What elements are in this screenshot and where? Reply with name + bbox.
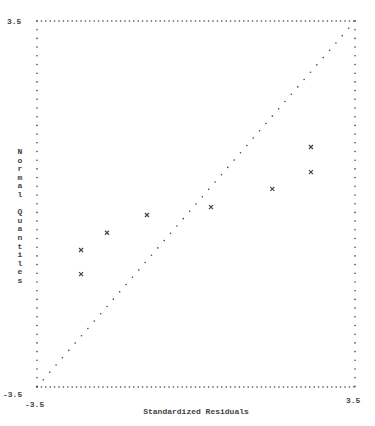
x-right-tick-label: 3.5 — [346, 396, 361, 405]
data-point-marker — [79, 272, 83, 276]
data-point-marker — [309, 145, 313, 149]
data-point-marker — [270, 187, 274, 191]
data-point-marker — [309, 170, 313, 174]
x-axis-label: Standardized Residuals — [143, 407, 249, 416]
y-bottom-tick-label: -3.5 — [3, 390, 22, 399]
qq-plot: 3.5 -3.5 -3.5 3.5 Standardized Residuals — [0, 0, 375, 426]
data-points — [79, 145, 313, 276]
data-point-marker — [79, 248, 83, 252]
y-axis-label: N o r m a l Q u a n t i l e s — [15, 148, 25, 286]
x-left-tick-label: -3.5 — [25, 400, 44, 409]
data-point-marker — [145, 213, 149, 217]
y-top-tick-label: 3.5 — [7, 17, 22, 26]
reference-line — [36, 20, 356, 388]
data-point-marker — [105, 231, 109, 235]
data-point-marker — [209, 205, 213, 209]
